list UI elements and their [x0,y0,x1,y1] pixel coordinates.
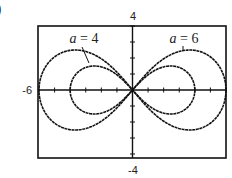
series-label-a4: a = 4 [70,31,99,46]
polar-plot: 4 -4 -6 a = 4 a = 6 [0,0,232,178]
y-min-label: -4 [128,164,138,176]
x-min-label: -6 [22,84,32,96]
y-max-label: 4 [130,10,136,22]
series-label-a6: a = 6 [170,31,199,46]
leader-line-a4 [82,47,89,63]
